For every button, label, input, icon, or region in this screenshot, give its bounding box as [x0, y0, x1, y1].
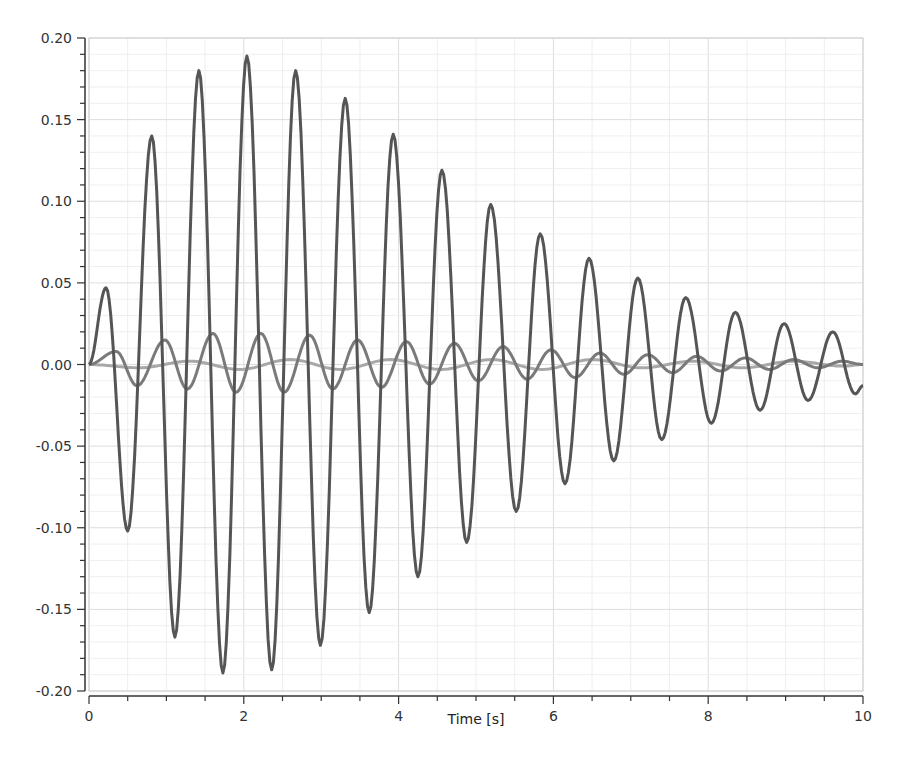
y-tick-label: 0.00 [41, 357, 72, 373]
x-tick-label: 0 [85, 708, 94, 724]
x-tick-label: 6 [549, 708, 558, 724]
x-tick-label: 10 [854, 708, 872, 724]
y-axis: 0.200.150.100.050.00-0.05-0.10-0.15-0.20 [36, 30, 85, 699]
y-tick-label: 0.05 [41, 275, 72, 291]
line-chart: 0.200.150.100.050.00-0.05-0.10-0.15-0.20… [0, 0, 901, 775]
x-tick-label: 2 [239, 708, 248, 724]
y-tick-label: -0.05 [36, 438, 72, 454]
y-tick-label: 0.10 [41, 193, 72, 209]
y-tick-label: -0.10 [36, 520, 72, 536]
y-tick-label: 0.15 [41, 112, 72, 128]
x-axis-title: Time [s] [447, 711, 505, 727]
y-tick-label: -0.15 [36, 601, 72, 617]
x-tick-label: 4 [394, 708, 403, 724]
x-tick-label: 8 [704, 708, 713, 724]
y-tick-label: 0.20 [41, 30, 72, 46]
y-tick-label: -0.20 [36, 683, 72, 699]
